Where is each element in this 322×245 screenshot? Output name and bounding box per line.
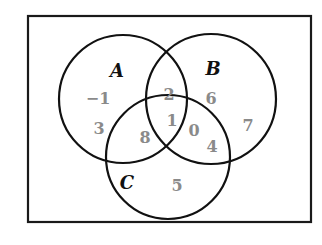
region-value-a-only-1: −1 [86, 89, 111, 108]
set-b-label: B [204, 58, 220, 79]
region-value-a-b-only: 2 [163, 85, 174, 104]
region-value-b-only-1: 6 [205, 89, 216, 108]
set-a-label: A [108, 60, 124, 81]
region-value-b-c-only-2: 4 [206, 137, 217, 156]
set-c-label: C [120, 172, 135, 193]
region-value-b-c-only-1: 0 [188, 121, 199, 140]
region-value-b-only-2: 7 [242, 116, 253, 135]
region-value-a-b-c: 1 [166, 111, 177, 130]
region-value-a-only-2: 3 [93, 119, 104, 138]
region-value-a-c-only: 8 [139, 128, 150, 147]
venn-diagram: A B C −1 3 6 7 2 1 8 0 4 5 [0, 0, 322, 245]
region-value-c-only: 5 [171, 176, 182, 195]
